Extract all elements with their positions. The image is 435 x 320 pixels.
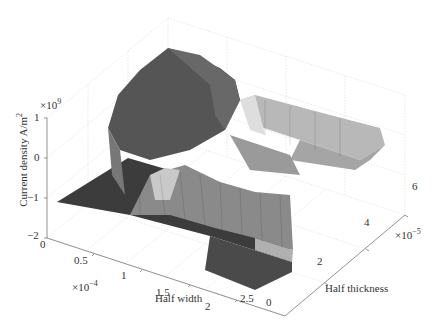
x-tick-1: 1: [121, 269, 127, 281]
y-axis: [285, 215, 405, 316]
z-multiplier: ×109: [40, 97, 61, 111]
y-tick-6: 6: [412, 180, 418, 192]
x-tick-2-5: 2.5: [240, 292, 254, 304]
x-axis-title: Half width: [155, 292, 202, 304]
y-axis-title: Half thickness: [325, 282, 388, 294]
x-tick-2: 2: [205, 300, 211, 312]
y-tick-2: 2: [317, 255, 323, 267]
y-tick-4: 4: [364, 216, 370, 228]
surface: [57, 48, 385, 290]
y-tick-0: 0: [266, 296, 272, 308]
y-multiplier: ×10−5: [395, 227, 421, 241]
z-axis-title: Current density A/m2: [15, 100, 29, 220]
x-tick-0-5: 0.5: [74, 254, 88, 266]
z-tick-1: 1: [34, 111, 40, 123]
x-multiplier: ×10−4: [72, 279, 98, 293]
z-tick-0: 0: [34, 151, 40, 163]
x-tick-0: 0: [40, 238, 46, 250]
z-tick-neg2: −2: [27, 229, 39, 241]
surface-plot: [0, 0, 435, 320]
